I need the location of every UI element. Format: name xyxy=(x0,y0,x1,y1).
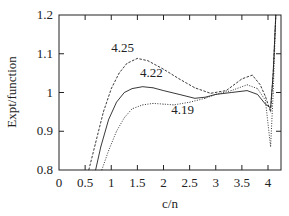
data-point xyxy=(116,131,117,132)
x-tick-label: 2 xyxy=(160,175,167,190)
data-point xyxy=(124,117,125,118)
data-point xyxy=(215,94,216,95)
series-line-4.25 xyxy=(89,15,276,170)
data-point xyxy=(101,146,102,147)
series-line-4.22 xyxy=(96,15,276,170)
series-4.25 xyxy=(88,15,276,171)
curve-label: 4.22 xyxy=(140,65,163,80)
chart: 00.511.522.533.54 0.80.911.11.2 4.254.22… xyxy=(0,0,289,216)
data-point xyxy=(153,103,154,104)
x-tick-label: 1 xyxy=(108,175,115,190)
series-group xyxy=(88,15,276,171)
data-point xyxy=(127,63,128,64)
series-4.19 xyxy=(102,15,277,171)
data-point xyxy=(270,146,271,147)
y-tick-label: 1 xyxy=(47,85,54,100)
y-axis-title: Expt/function xyxy=(4,56,19,128)
data-point xyxy=(270,108,271,109)
y-axis: 0.80.911.11.2 xyxy=(37,7,281,177)
data-point xyxy=(88,170,89,171)
data-point xyxy=(242,79,243,80)
data-point xyxy=(108,119,109,120)
data-point xyxy=(116,102,117,103)
data-point xyxy=(179,79,180,80)
data-point xyxy=(270,112,271,113)
data-point xyxy=(195,98,196,99)
data-point xyxy=(142,105,143,106)
data-point xyxy=(103,112,104,113)
data-point xyxy=(257,88,258,89)
data-point xyxy=(273,92,274,93)
data-point xyxy=(102,170,103,171)
data-point xyxy=(205,98,206,99)
data-point xyxy=(252,75,253,76)
y-tick-label: 0.8 xyxy=(37,162,53,177)
data-point xyxy=(119,73,120,74)
data-point xyxy=(163,104,164,105)
data-point xyxy=(132,88,133,89)
x-tick-label: 3.5 xyxy=(234,175,250,190)
data-point xyxy=(257,94,258,95)
data-point xyxy=(163,90,164,91)
y-tick-label: 0.9 xyxy=(37,123,53,138)
data-point xyxy=(95,143,96,144)
data-point xyxy=(132,108,133,109)
data-point xyxy=(108,150,109,151)
x-tick-label: 0 xyxy=(56,175,63,190)
data-point xyxy=(137,58,138,59)
x-axis-title: c/n xyxy=(162,196,178,211)
data-point xyxy=(276,15,277,16)
x-tick-label: 2.5 xyxy=(182,175,198,190)
data-point xyxy=(124,92,125,93)
data-point xyxy=(265,104,266,105)
data-point xyxy=(142,86,143,87)
data-point xyxy=(205,97,206,98)
y-tick-label: 1.2 xyxy=(37,7,53,22)
data-point xyxy=(95,170,96,171)
data-point xyxy=(265,96,266,97)
data-point xyxy=(210,93,211,94)
series-4.22 xyxy=(95,15,276,171)
data-point xyxy=(111,88,112,89)
data-point xyxy=(195,88,196,89)
data-point xyxy=(231,92,232,93)
data-point xyxy=(153,88,154,89)
data-point xyxy=(226,90,227,91)
data-point xyxy=(148,60,149,61)
data-point xyxy=(260,84,261,85)
series-line-4.19 xyxy=(102,15,276,170)
curve-label: 4.19 xyxy=(171,102,194,117)
data-point xyxy=(163,69,164,70)
data-point xyxy=(265,100,266,101)
x-axis: 00.511.522.533.54 xyxy=(56,15,272,190)
data-point xyxy=(231,90,232,91)
x-tick-label: 3 xyxy=(213,175,220,190)
data-point xyxy=(179,94,180,95)
annotations: 4.254.224.19 xyxy=(111,40,194,117)
x-tick-label: 0.5 xyxy=(77,175,93,190)
data-point xyxy=(247,84,248,85)
curve-label: 4.25 xyxy=(111,40,134,55)
data-point xyxy=(247,90,248,91)
x-tick-label: 1.5 xyxy=(129,175,145,190)
x-tick-label: 4 xyxy=(265,175,272,190)
y-tick-label: 1.1 xyxy=(37,46,53,61)
